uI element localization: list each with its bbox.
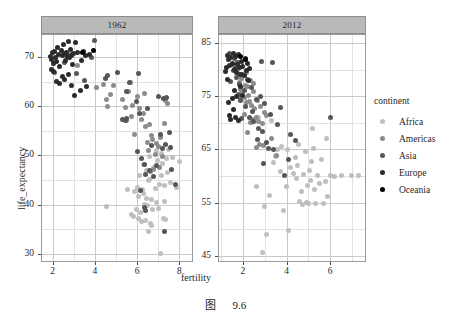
x-axis-tick-mark xyxy=(330,262,331,265)
data-point xyxy=(94,85,99,90)
data-point xyxy=(264,140,269,145)
data-point xyxy=(269,136,274,141)
data-point xyxy=(123,105,128,110)
x-axis-tick-mark xyxy=(287,262,288,265)
data-point xyxy=(254,184,259,189)
x-axis-tick-mark xyxy=(53,262,54,265)
facet-strip-2012: 2012 xyxy=(218,16,366,34)
y-axis-tick-label: 60 xyxy=(14,100,34,110)
data-point xyxy=(154,163,159,168)
y-axis-tick-mark xyxy=(215,43,218,44)
data-point xyxy=(226,100,231,105)
data-point xyxy=(124,89,129,94)
data-point xyxy=(82,78,87,83)
y-axis-tick-label: 50 xyxy=(14,149,34,159)
data-point xyxy=(279,144,284,149)
data-point xyxy=(57,81,62,86)
legend-item-asia[interactable]: Asia xyxy=(374,147,450,164)
data-point xyxy=(156,94,161,99)
legend-swatch-icon xyxy=(374,187,390,192)
legend-title: continent xyxy=(374,96,450,106)
data-point xyxy=(305,183,310,188)
data-point xyxy=(144,196,149,201)
data-point xyxy=(262,101,267,106)
data-point xyxy=(143,218,148,223)
legend-swatch-icon xyxy=(374,119,390,124)
data-point xyxy=(142,91,147,96)
data-point xyxy=(138,210,143,215)
data-point xyxy=(104,204,109,209)
gridline-horizontal xyxy=(219,203,365,204)
data-point xyxy=(278,105,283,110)
data-point xyxy=(323,179,328,184)
data-point xyxy=(324,136,329,141)
data-point xyxy=(145,106,150,111)
data-point xyxy=(310,126,315,131)
data-point xyxy=(267,193,272,198)
data-point xyxy=(101,82,106,87)
data-point xyxy=(136,216,141,221)
data-point xyxy=(162,183,167,188)
data-point xyxy=(75,63,80,68)
x-axis-tick-label: 8 xyxy=(169,266,189,276)
data-point xyxy=(137,111,142,116)
data-point xyxy=(136,194,141,199)
legend-item-label: Oceania xyxy=(399,185,430,195)
data-point xyxy=(162,121,167,126)
facet-strip-label-1962: 1962 xyxy=(108,20,127,30)
data-point xyxy=(295,163,300,168)
data-point xyxy=(146,229,151,234)
data-point xyxy=(270,60,275,65)
data-point xyxy=(72,93,77,98)
gridline-horizontal xyxy=(219,123,365,124)
data-point xyxy=(303,149,308,154)
data-point xyxy=(223,69,228,74)
data-point xyxy=(157,182,162,187)
legend-items: AfricaAmericasAsiaEuropeOceania xyxy=(374,113,450,198)
data-point xyxy=(147,168,152,173)
data-point xyxy=(129,114,134,119)
data-point xyxy=(150,207,155,212)
gridline-horizontal xyxy=(219,70,365,71)
data-point xyxy=(299,189,304,194)
data-point xyxy=(288,132,293,137)
plot-panel-1962 xyxy=(41,34,193,262)
data-point xyxy=(230,61,235,66)
data-point xyxy=(309,159,314,164)
data-point xyxy=(293,155,298,160)
y-axis-tick-mark xyxy=(215,96,218,97)
gridline-horizontal xyxy=(42,229,192,230)
data-point xyxy=(155,158,160,163)
data-point xyxy=(349,173,354,178)
data-point xyxy=(167,130,172,135)
gridline-vertical xyxy=(74,35,75,261)
data-point xyxy=(74,71,79,76)
facet-strip-1962: 1962 xyxy=(41,16,193,34)
data-point xyxy=(137,106,142,111)
y-axis-tick-label: 75 xyxy=(191,90,211,100)
data-point xyxy=(274,153,279,158)
x-axis-tick-label: 6 xyxy=(127,266,147,276)
data-point xyxy=(66,39,71,44)
data-point xyxy=(234,94,239,99)
legend-item-americas[interactable]: Americas xyxy=(374,130,450,147)
data-point xyxy=(281,208,286,213)
x-axis-tick-mark xyxy=(179,262,180,265)
legend-item-africa[interactable]: Africa xyxy=(374,113,450,130)
data-point xyxy=(160,154,165,159)
data-point xyxy=(356,173,361,178)
data-point xyxy=(139,117,144,122)
data-point xyxy=(78,88,83,93)
data-point xyxy=(168,145,173,150)
legend-item-oceania[interactable]: Oceania xyxy=(374,181,450,198)
legend-item-label: Africa xyxy=(399,117,423,127)
data-point xyxy=(134,207,139,212)
data-point xyxy=(286,228,291,233)
legend-item-europe[interactable]: Europe xyxy=(374,164,450,181)
data-point xyxy=(162,199,167,204)
gridline-vertical xyxy=(179,35,180,261)
data-point xyxy=(156,206,161,211)
data-point xyxy=(80,50,85,55)
data-point xyxy=(300,202,305,207)
legend-item-label: Asia xyxy=(399,151,416,161)
